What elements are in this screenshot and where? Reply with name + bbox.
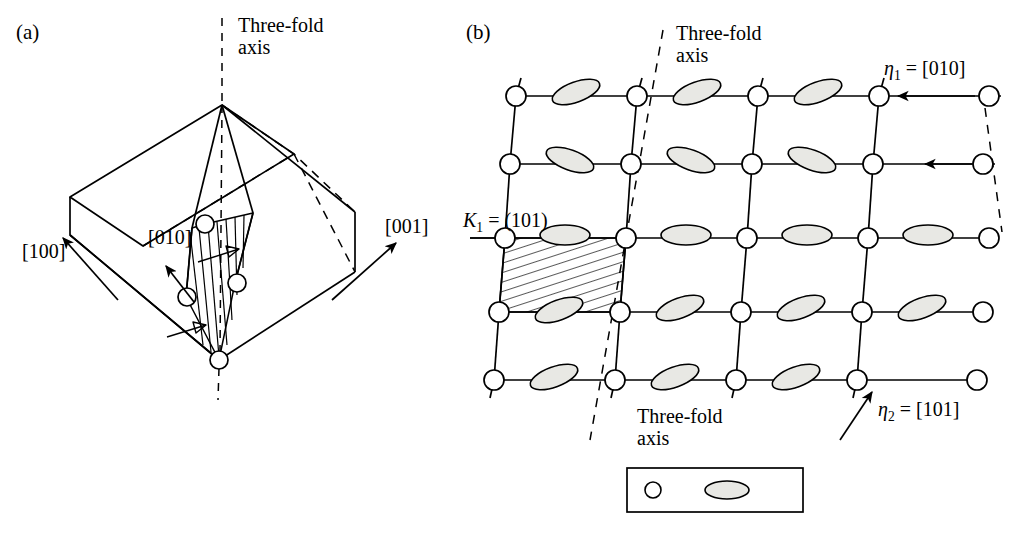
figure-canvas: [0, 0, 1018, 542]
direction-label-100: [100]: [22, 240, 65, 263]
k1-symbol: K: [463, 209, 476, 231]
twin-plane-edge-top-right: [222, 105, 253, 213]
eta2-value: = [101]: [900, 398, 960, 420]
eta1-symbol: η: [884, 57, 894, 79]
eta1-label: η1 = [010]: [884, 57, 965, 84]
k1-label: K1 = (101): [463, 209, 548, 236]
eta1-value: = [010]: [906, 57, 966, 79]
k1-value: = (101): [488, 209, 548, 231]
figure-root: (a) Three-fold axis [100] [010] [001] (b…: [0, 0, 1018, 542]
eta1-sub: 1: [894, 68, 901, 83]
shear-arrow-lower: [167, 322, 206, 337]
eta2-symbol: η: [878, 398, 888, 420]
threefold-axis-dashed-inner: [220, 105, 222, 352]
eta2-arrow: [840, 392, 872, 440]
panel-b-graphics: [470, 30, 1002, 512]
panel-a-threefold-axis-label: Three-fold axis: [238, 14, 324, 59]
ca-site-a1: [196, 215, 214, 233]
threefold-axis-line1: Three-fold: [238, 14, 324, 36]
k1-sub: 1: [476, 220, 483, 235]
panel-b-threefold-axis-top-label: Three-fold axis: [676, 22, 762, 67]
direction-arrow-001: [332, 243, 396, 300]
panel-a-tag: (a): [16, 20, 39, 45]
eta2-sub: 2: [888, 409, 895, 424]
threefold-axis-bottom-line2: axis: [637, 427, 669, 449]
direction-label-001: [001]: [385, 215, 428, 238]
threefold-axis-top-line2: axis: [676, 44, 708, 66]
rhombohedron-top-face: [70, 105, 294, 246]
co3-group-row-4: [527, 359, 823, 395]
rhombohedron-hidden-edge-3: [294, 154, 355, 272]
ca-site-a2: [228, 274, 246, 292]
rhombohedron-edge-apex-right: [222, 105, 355, 212]
threefold-axis-line2: axis: [238, 36, 270, 58]
threefold-axis-dashed-lower: [218, 368, 219, 400]
legend-ca-marker: [645, 482, 661, 498]
ca-site-a4: [210, 351, 228, 369]
shear-arrow-upper: [198, 246, 239, 262]
twin-plane-edge-top: [192, 105, 222, 228]
panel-b-tag: (b): [466, 20, 491, 45]
eta2-label: η2 = [101]: [878, 398, 959, 425]
panel-b-threefold-axis-bottom-label: Three-fold axis: [637, 405, 723, 450]
legend-co3-marker: [705, 481, 749, 499]
threefold-axis-top-line1: Three-fold: [676, 22, 762, 44]
threefold-axis-bottom-line1: Three-fold: [637, 405, 723, 427]
co3-group-row-1: [543, 142, 839, 178]
ca-site-a3: [178, 288, 196, 306]
co3-group-row-0: [549, 74, 845, 110]
direction-label-010: [010]: [148, 226, 191, 249]
panel-a-graphics: [63, 18, 396, 400]
